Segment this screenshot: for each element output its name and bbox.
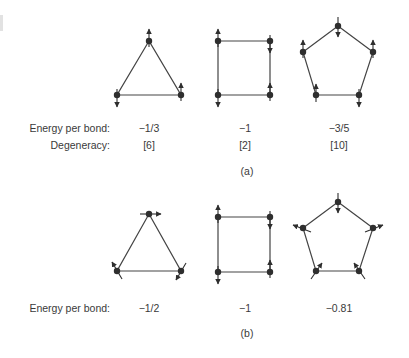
- spin-site-node: [356, 92, 362, 98]
- energy-value-square-b: −1: [239, 302, 251, 314]
- energy-row-label-b: Energy per bond:: [0, 302, 110, 314]
- square-a: [218, 41, 270, 95]
- spin-site-node: [215, 269, 221, 275]
- triangle-a: [117, 41, 181, 95]
- spin-site-node: [300, 49, 306, 55]
- spin-site-node: [335, 23, 341, 29]
- degeneracy-row-label: Degeneracy:: [0, 139, 110, 151]
- spin-site-node: [313, 92, 319, 98]
- spins-b: [112, 193, 383, 284]
- spin-site-node: [215, 214, 221, 220]
- energy-value-pentagon-a: −3/5: [329, 122, 350, 134]
- energy-row-label-a: Energy per bond:: [0, 122, 110, 134]
- square-b: [218, 217, 270, 272]
- spin-site-node: [356, 268, 362, 274]
- spin-site-node: [146, 38, 152, 44]
- degeneracy-value-square: [2]: [239, 139, 251, 151]
- triangle-b: [117, 214, 181, 271]
- spin-site-node: [313, 268, 319, 274]
- spin-site-node: [267, 214, 273, 220]
- panel-b-caption: (b): [241, 327, 254, 339]
- spin-site-node: [114, 92, 120, 98]
- spin-site-node: [267, 38, 273, 44]
- spin-site-node: [370, 225, 376, 231]
- panel-a: [117, 26, 373, 95]
- panel-b: [117, 202, 373, 272]
- energy-value-triangle-a: −1/3: [139, 122, 160, 134]
- energy-value-pentagon-b: −0.81: [326, 302, 353, 314]
- spin-site-node: [146, 211, 152, 217]
- nodes-a: [114, 23, 376, 98]
- spin-site-node: [215, 38, 221, 44]
- nodes-b: [114, 199, 376, 275]
- degeneracy-value-triangle: [6]: [143, 139, 155, 151]
- degeneracy-value-pentagon: [10]: [330, 139, 348, 151]
- spin-site-node: [300, 225, 306, 231]
- spin-site-node: [215, 92, 221, 98]
- spin-site-node: [267, 269, 273, 275]
- energy-value-square-a: −1: [239, 122, 251, 134]
- spin-site-node: [178, 92, 184, 98]
- spin-site-node: [114, 268, 120, 274]
- spins-a: [117, 17, 373, 107]
- spin-site-node: [370, 49, 376, 55]
- energy-value-triangle-b: −1/2: [139, 302, 160, 314]
- spin-site-node: [178, 268, 184, 274]
- spin-site-node: [267, 92, 273, 98]
- spin-site-node: [335, 199, 341, 205]
- panel-a-caption: (a): [241, 165, 254, 177]
